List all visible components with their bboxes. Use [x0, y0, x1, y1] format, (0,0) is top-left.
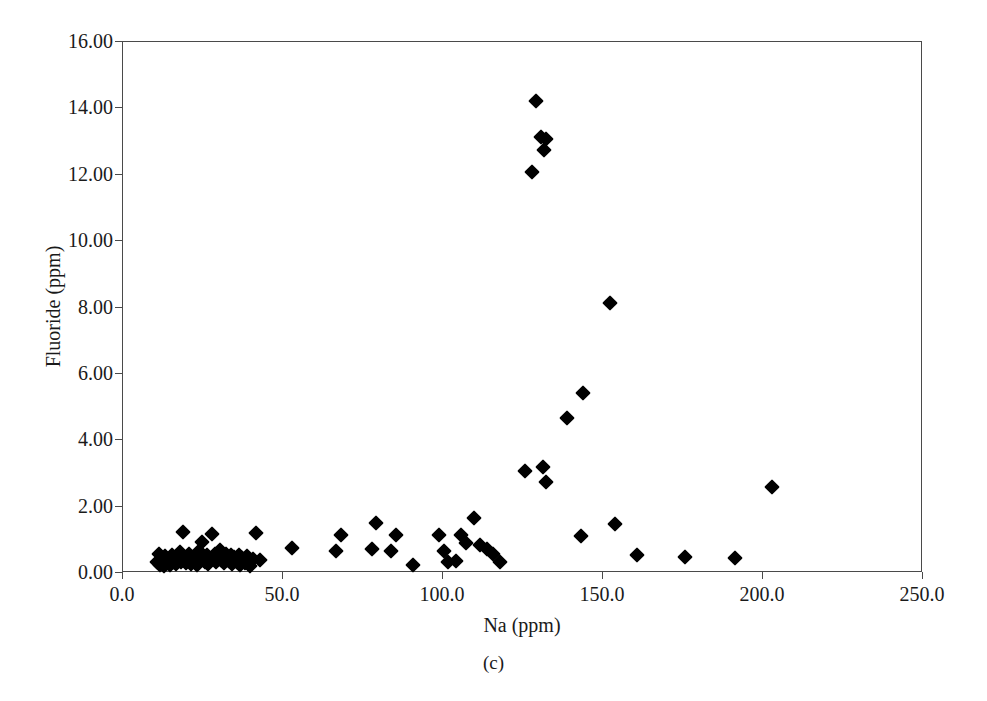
data-point-marker: [727, 550, 743, 566]
x-tick-mark: [762, 572, 763, 579]
data-point-marker: [517, 463, 533, 479]
y-tick-label: 0.00: [78, 561, 113, 584]
data-point-marker: [677, 549, 693, 565]
data-point-marker: [333, 527, 349, 543]
x-tick-mark: [442, 572, 443, 579]
data-point-marker: [529, 93, 545, 109]
y-tick-label: 14.00: [68, 96, 113, 119]
figure-caption: (c): [0, 652, 987, 674]
y-tick-mark: [115, 373, 122, 374]
x-tick-mark: [282, 572, 283, 579]
y-axis-title: Fluoride (ppm): [42, 41, 65, 572]
data-point-marker: [466, 510, 482, 526]
data-point-marker: [388, 528, 404, 544]
x-tick-mark: [602, 572, 603, 579]
x-axis-title: Na (ppm): [122, 614, 922, 637]
x-tick-label: 150.0: [580, 583, 625, 606]
data-point-marker: [369, 515, 385, 531]
y-tick-label: 16.00: [68, 30, 113, 53]
data-point-marker: [249, 525, 265, 541]
x-tick-label: 0.0: [110, 583, 135, 606]
data-point-marker: [537, 142, 553, 158]
y-tick-mark: [115, 107, 122, 108]
data-point-marker: [535, 460, 551, 476]
x-tick-mark: [122, 572, 123, 579]
data-point-marker: [329, 544, 345, 560]
y-tick-label: 6.00: [78, 361, 113, 384]
data-point-marker: [575, 386, 591, 402]
x-tick-label: 250.0: [900, 583, 945, 606]
x-tick-label: 200.0: [740, 583, 785, 606]
data-point-marker: [524, 164, 540, 180]
data-point-marker: [364, 542, 380, 558]
data-point-marker: [405, 557, 421, 573]
data-point-marker: [764, 480, 780, 496]
y-tick-label: 2.00: [78, 494, 113, 517]
y-tick-mark: [115, 240, 122, 241]
y-tick-label: 4.00: [78, 428, 113, 451]
data-point-marker: [538, 475, 554, 491]
data-point-marker: [559, 410, 575, 426]
y-tick-mark: [115, 506, 122, 507]
plot-area: 0.002.004.006.008.0010.0012.0014.0016.00…: [122, 41, 922, 572]
y-tick-label: 12.00: [68, 162, 113, 185]
data-point-marker: [607, 516, 623, 532]
data-point-marker: [383, 544, 399, 560]
data-point-marker: [431, 527, 447, 543]
y-tick-mark: [115, 174, 122, 175]
x-tick-mark: [922, 572, 923, 579]
data-point-marker: [573, 528, 589, 544]
y-tick-mark: [115, 307, 122, 308]
data-point-marker: [175, 524, 191, 540]
scatter-chart-figure: 0.002.004.006.008.0010.0012.0014.0016.00…: [0, 0, 987, 701]
y-tick-label: 8.00: [78, 295, 113, 318]
y-tick-mark: [115, 41, 122, 42]
data-point-marker: [284, 540, 300, 556]
data-point-marker: [602, 295, 618, 311]
x-tick-label: 50.0: [265, 583, 300, 606]
x-tick-label: 100.0: [420, 583, 465, 606]
y-tick-mark: [115, 439, 122, 440]
y-tick-label: 10.00: [68, 229, 113, 252]
data-point-marker: [629, 547, 645, 563]
y-tick-mark: [115, 572, 122, 573]
